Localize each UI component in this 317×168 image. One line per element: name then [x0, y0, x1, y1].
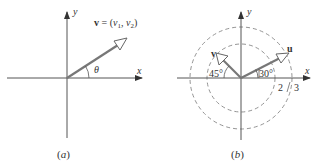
figure-canvas: x y θ v = (v1, v2) (a) x y u v 30° — [0, 0, 317, 168]
angle-label-45: 45° — [209, 68, 223, 79]
vector-u-label: u — [287, 43, 293, 54]
radius-label-2: 2 — [278, 82, 283, 93]
angle-label-theta: θ — [94, 64, 99, 75]
vector-label-a: v = (v1, v2) — [94, 17, 137, 30]
y-axis-label-a: y — [72, 6, 78, 17]
vector-v-a — [67, 45, 118, 78]
x-axis-label-b: x — [304, 65, 310, 76]
angle-label-30: 30° — [259, 68, 273, 79]
vector-v-b — [222, 59, 241, 78]
vector-v-label-b: v — [211, 48, 216, 59]
vector-v-arrowhead-a — [114, 38, 127, 50]
y-axis-label-b: y — [246, 6, 252, 17]
angle-arc-45 — [224, 66, 229, 78]
vector-u-arrowhead — [276, 53, 289, 63]
radius-label-3: 3 — [294, 82, 299, 93]
radius-separator — [287, 82, 290, 92]
caption-a: (a) — [57, 148, 70, 161]
x-axis-label-a: x — [136, 65, 142, 76]
angle-arc-theta — [86, 66, 90, 78]
figure-a: x y θ v = (v1, v2) (a) — [7, 6, 142, 161]
figure-b: x y u v 30° 45° 2 3 (b) — [177, 6, 310, 161]
caption-b: (b) — [231, 148, 244, 161]
